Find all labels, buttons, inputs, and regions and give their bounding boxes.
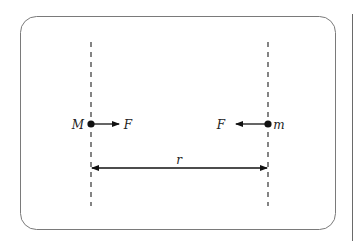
diagram-frame <box>21 17 336 230</box>
mass-m-large-label: M <box>71 118 85 132</box>
mass-m-small-label: m <box>273 118 284 132</box>
separation-label: r <box>176 153 183 167</box>
force-left-label: F <box>123 118 133 132</box>
gravitation-diagram: M F m F r <box>0 0 358 241</box>
force-right-label: F <box>216 118 226 132</box>
